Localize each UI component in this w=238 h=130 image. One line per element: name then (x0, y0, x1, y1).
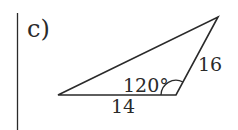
angle-label: 120° (123, 74, 169, 96)
part-label: c) (27, 15, 50, 43)
side-label-bottom: 14 (111, 95, 135, 117)
triangle-figure: c) 120° 14 16 (0, 0, 238, 130)
side-label-right: 16 (198, 53, 222, 75)
